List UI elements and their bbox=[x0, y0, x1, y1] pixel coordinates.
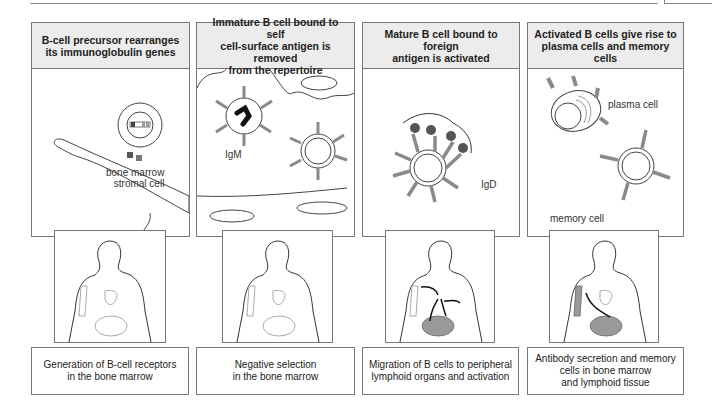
panel-title: Activated B cells give rise to plasma ce… bbox=[528, 23, 683, 69]
caption-negative-selection: Negative selection in the bone marrow bbox=[196, 347, 355, 395]
caption-generation: Generation of B-cell receptors in the bo… bbox=[31, 347, 189, 395]
igd-label: IgD bbox=[481, 179, 497, 190]
memory-cell-label: memory cell bbox=[550, 213, 604, 224]
body-diagram-bone-marrow bbox=[54, 230, 166, 343]
human-silhouette-icon bbox=[386, 231, 494, 342]
panel-precursor: B-cell precursor rearranges its immunogl… bbox=[31, 22, 190, 237]
corner-tab bbox=[664, 0, 712, 4]
panel-activation: Mature B cell bound to foreign antigen i… bbox=[362, 22, 520, 237]
stromal-cell-label: bone marrow stromal cell bbox=[106, 167, 164, 189]
immature-b-cell bbox=[226, 98, 262, 134]
panel-negative-selection: Immature B cell bound to self cell-surfa… bbox=[196, 22, 355, 237]
human-silhouette-icon bbox=[55, 231, 165, 342]
immature-b-cell-illustration bbox=[197, 68, 354, 236]
top-rule bbox=[30, 0, 658, 4]
panel-title: Mature B cell bound to foreign antigen i… bbox=[363, 23, 519, 69]
caption-secretion: Antibody secretion and memory cells in b… bbox=[527, 347, 684, 395]
body-diagram-migration bbox=[385, 230, 495, 343]
plasma-cell-label: plasma cell bbox=[608, 99, 658, 110]
body-diagram-secretion bbox=[549, 230, 659, 343]
caption-migration: Migration of B cells to peripheral lymph… bbox=[362, 347, 519, 395]
precursor-illustration bbox=[32, 68, 189, 236]
igm-label: IgM bbox=[225, 149, 242, 160]
return-arrow-icon bbox=[586, 293, 610, 317]
mature-b-cell-illustration bbox=[363, 68, 519, 236]
body-diagram-negative-selection bbox=[222, 230, 333, 343]
human-silhouette-icon bbox=[223, 231, 332, 342]
plasma-memory-cell-illustration bbox=[528, 68, 683, 236]
panel-title: Immature B cell bound to self cell-surfa… bbox=[197, 23, 354, 69]
human-silhouette-icon bbox=[550, 231, 658, 342]
panel-differentiation: Activated B cells give rise to plasma ce… bbox=[527, 22, 684, 237]
panel-title: B-cell precursor rearranges its immunogl… bbox=[32, 23, 189, 69]
